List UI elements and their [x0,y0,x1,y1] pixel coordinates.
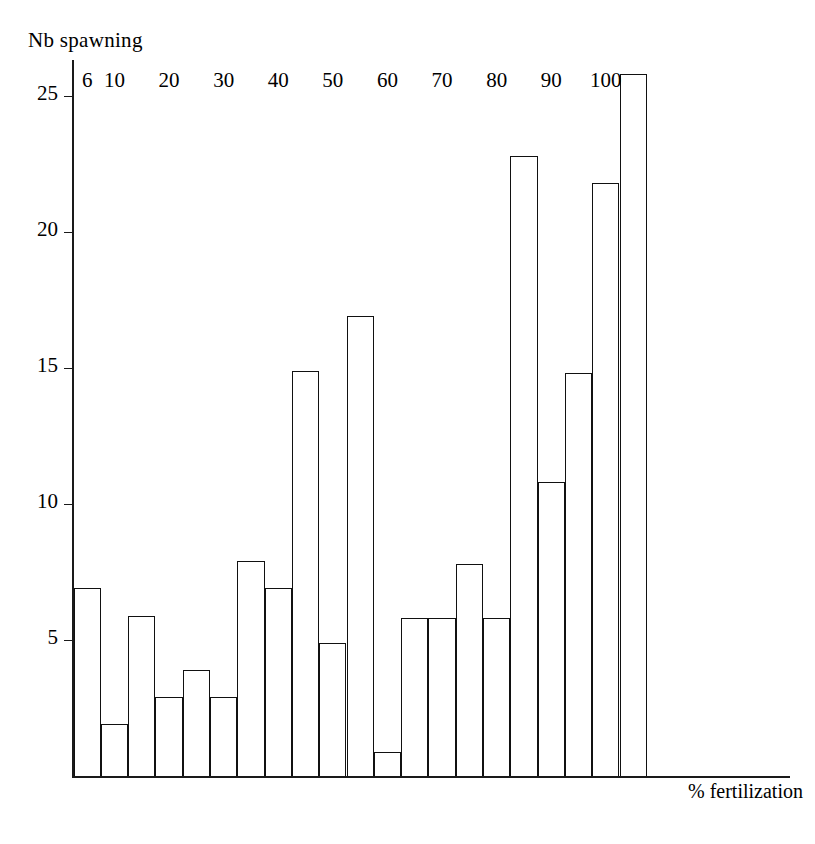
plot-area: 510152025 6102030405060708090100 [72,60,790,777]
x-axis-title: % fertilization [688,780,803,803]
bar [565,373,592,776]
bar [128,616,155,776]
x-tick-label: 100 [590,70,622,91]
bar [456,564,483,776]
y-tick: 25 [64,96,72,97]
x-tick-label: 50 [322,70,343,91]
x-axis-line [72,776,790,778]
bar [428,618,455,776]
x-tick-label: 60 [377,70,398,91]
bar [347,316,374,776]
x-tick-label: 70 [432,70,453,91]
y-tick-label: 5 [48,627,59,648]
y-tick: 10 [64,504,72,505]
bar [401,618,428,776]
bar [510,156,537,776]
y-tick: 5 [64,640,72,641]
bar [265,588,292,776]
bar [483,618,510,776]
x-tick-label: 10 [104,70,125,91]
bar [155,697,182,776]
bar [538,482,565,776]
x-tick-label: 40 [268,70,289,91]
y-tick-label: 10 [37,491,58,512]
y-tick: 15 [64,368,72,369]
y-axis-title: Nb spawning [28,28,143,53]
bar [183,670,210,776]
y-tick-label: 15 [37,355,58,376]
bar [74,588,101,776]
x-tick-label: 90 [541,70,562,91]
bar [237,561,264,776]
bar [592,183,619,776]
x-tick-label: 30 [213,70,234,91]
x-tick-label: 6 [82,70,93,91]
bar-chart-figure: Nb spawning 510152025 610203040506070809… [0,0,815,844]
bar [210,697,237,776]
y-tick-label: 25 [37,83,58,104]
bar [319,643,346,776]
y-tick-label: 20 [37,219,58,240]
x-tick-label: 20 [159,70,180,91]
y-tick: 20 [64,232,72,233]
bar [101,724,128,776]
bar [292,371,319,776]
bar [620,74,647,776]
bar [374,752,401,776]
x-tick-label: 80 [486,70,507,91]
